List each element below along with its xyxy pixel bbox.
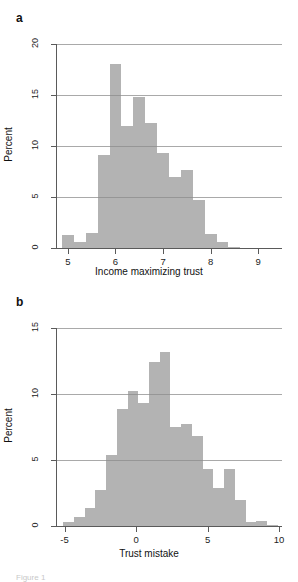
- gridline-y-5: [56, 197, 282, 198]
- panel-b-plot-area: 051015-50510: [56, 328, 282, 526]
- histogram-bar: [133, 97, 145, 248]
- x-tick-label-10: 10: [274, 534, 285, 545]
- panel-a-y-axis-title: Percent: [3, 105, 14, 185]
- figure-caption: Figure 1: [16, 573, 45, 582]
- x-tick--5: [65, 527, 66, 532]
- histogram-bar: [62, 235, 74, 248]
- y-tick-label-5: 5: [30, 450, 40, 468]
- histogram-bar: [193, 200, 205, 248]
- histogram-bar: [203, 469, 214, 526]
- histogram-bar: [145, 123, 157, 248]
- histogram-bar: [98, 155, 110, 248]
- x-tick-10: [279, 527, 280, 532]
- x-tick-5: [68, 249, 69, 254]
- histogram-bar: [213, 488, 224, 526]
- panel-a: a Percent 0510152056789 Income maximizin…: [0, 0, 298, 290]
- histogram-bar: [235, 500, 246, 526]
- histogram-bar: [160, 352, 171, 526]
- gridline-y-10: [56, 146, 282, 147]
- histogram-bar: [192, 436, 203, 526]
- y-tick-label-10: 10: [30, 384, 40, 402]
- histogram-bar: [128, 391, 139, 526]
- gridline-y-5: [56, 460, 282, 461]
- y-axis-line: [56, 328, 57, 526]
- histogram-bar: [86, 233, 98, 248]
- histogram-bar: [117, 409, 128, 526]
- x-tick-0: [136, 527, 137, 532]
- y-tick-label-5: 5: [30, 187, 40, 205]
- histogram-bar: [169, 177, 181, 248]
- x-tick-label-0: 0: [133, 534, 138, 545]
- histogram-bar: [181, 170, 193, 248]
- gridline-y-15: [56, 328, 282, 329]
- histogram-bar: [149, 362, 160, 526]
- x-tick-8: [211, 249, 212, 254]
- histogram-bar: [74, 517, 85, 526]
- gridline-y-10: [56, 394, 282, 395]
- histogram-bar: [205, 234, 217, 248]
- y-tick-label-0: 0: [30, 516, 40, 534]
- histogram-bar: [121, 126, 133, 248]
- histogram-bar: [181, 424, 192, 526]
- y-tick-label-20: 20: [30, 34, 40, 52]
- panel-a-plot-area: 0510152056789: [56, 44, 282, 248]
- panel-a-x-axis-title: Income maximizing trust: [0, 266, 298, 277]
- x-axis-line: [56, 248, 282, 249]
- x-tick-label-5: 5: [205, 534, 210, 545]
- panel-b: b Percent 051015-50510 Trust mistake: [0, 288, 298, 580]
- x-axis-line: [56, 526, 282, 527]
- gridline-y-20: [56, 44, 282, 45]
- y-tick-label-0: 0: [30, 238, 40, 256]
- histogram-bar: [224, 469, 235, 526]
- x-tick-5: [208, 527, 209, 532]
- x-tick-label--5: -5: [60, 534, 68, 545]
- x-tick-6: [115, 249, 116, 254]
- histogram-bar: [157, 153, 169, 248]
- y-tick-label-15: 15: [30, 318, 40, 336]
- panel-b-x-axis-title: Trust mistake: [0, 548, 298, 559]
- y-tick-label-15: 15: [30, 85, 40, 103]
- y-tick-label-10: 10: [30, 136, 40, 154]
- histogram-bar: [138, 403, 149, 526]
- gridline-y-15: [56, 95, 282, 96]
- histogram-bar: [106, 455, 117, 526]
- histogram-bar: [110, 64, 122, 248]
- histogram-bar: [170, 427, 181, 526]
- panel-b-y-axis-title: Percent: [3, 386, 14, 466]
- x-tick-9: [258, 249, 259, 254]
- panel-b-bars: [56, 328, 282, 526]
- histogram-bar: [85, 508, 96, 526]
- panel-a-letter: a: [16, 12, 23, 24]
- histogram-bar: [95, 490, 106, 526]
- panel-b-letter: b: [16, 296, 23, 308]
- x-tick-7: [163, 249, 164, 254]
- y-axis-line: [56, 44, 57, 248]
